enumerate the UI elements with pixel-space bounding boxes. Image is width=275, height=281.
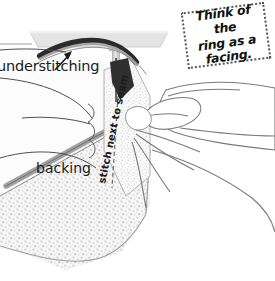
callout-box: Think of the ring as a facing. [181,2,272,69]
sewing-illustration: understitching backing stitch next to se… [0,0,275,281]
label-backing: backing [36,161,91,175]
machine-bed-highlight [30,31,168,33]
callout-text: Think of the ring as a facing. [186,2,265,70]
pinch-highlight [126,107,152,130]
label-understitching: understitching [0,59,99,74]
